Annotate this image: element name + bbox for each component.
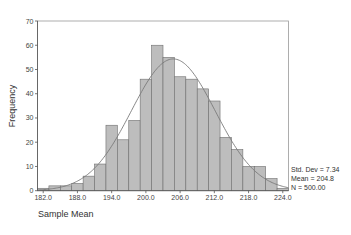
stat-n: N = 500.00 — [291, 184, 326, 191]
histogram-chart: 010203040506070 182.0188.0194.0200.0206.… — [0, 0, 351, 235]
histogram-bars — [38, 45, 289, 190]
histogram-bar — [106, 125, 117, 190]
histogram-bar — [129, 120, 140, 190]
histogram-bar — [140, 79, 151, 191]
y-axis-title: Frequency — [7, 84, 17, 127]
y-tick-label: 50 — [26, 66, 34, 73]
y-tick-label: 10 — [26, 163, 34, 170]
y-tick-label: 40 — [26, 90, 34, 97]
histogram-bar — [152, 45, 163, 190]
histogram-bar — [243, 166, 254, 190]
y-tick-label: 30 — [26, 114, 34, 121]
histogram-bar — [95, 164, 106, 191]
y-tick-label: 60 — [26, 42, 34, 49]
histogram-bar — [174, 77, 185, 191]
x-axis-title: Sample Mean — [38, 209, 94, 219]
stat-mean: Mean = 204.8 — [291, 175, 334, 182]
histogram-bar — [209, 101, 220, 191]
y-tick-label: 20 — [26, 139, 34, 146]
x-axis: 182.0188.0194.0200.0206.0212.0218.0224.0 — [34, 191, 291, 201]
histogram-bar — [163, 57, 174, 190]
x-tick-label: 188.0 — [69, 194, 87, 201]
x-tick-label: 224.0 — [274, 194, 292, 201]
x-tick-label: 212.0 — [206, 194, 224, 201]
x-tick-label: 200.0 — [137, 194, 155, 201]
histogram-bar — [186, 79, 197, 191]
stat-std-dev: Std. Dev = 7.34 — [291, 166, 340, 173]
y-axis: 010203040506070 — [26, 18, 38, 195]
y-tick-label: 70 — [26, 18, 34, 25]
histogram-bar — [72, 183, 83, 190]
histogram-bar — [197, 89, 208, 191]
x-tick-label: 206.0 — [171, 194, 189, 201]
histogram-bar — [117, 140, 128, 191]
histogram-bar — [220, 137, 231, 190]
x-tick-label: 182.0 — [34, 194, 52, 201]
histogram-bar — [83, 176, 94, 191]
x-tick-label: 218.0 — [240, 194, 258, 201]
x-tick-label: 194.0 — [103, 194, 121, 201]
y-tick-label: 0 — [30, 187, 34, 194]
